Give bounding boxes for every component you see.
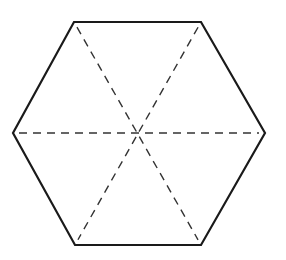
hexagon-diagram	[0, 0, 286, 260]
